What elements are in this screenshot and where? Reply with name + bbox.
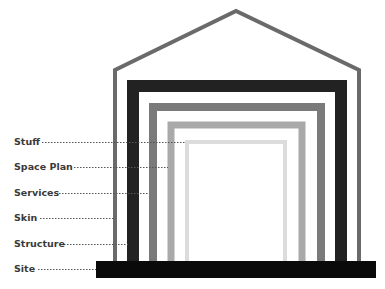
label-space-plan: Space Plan bbox=[14, 161, 73, 173]
stuff-layer-frame bbox=[187, 142, 285, 261]
services-layer-frame bbox=[153, 107, 321, 261]
label-structure: Structure bbox=[14, 238, 65, 250]
label-stuff: Stuff bbox=[14, 136, 40, 148]
label-site: Site bbox=[14, 263, 35, 275]
space-plan-layer-frame bbox=[171, 125, 302, 261]
label-services: Services bbox=[14, 187, 59, 199]
label-skin: Skin bbox=[14, 212, 37, 224]
site-layer-ground bbox=[96, 261, 376, 278]
structure-layer-frame bbox=[133, 86, 341, 261]
